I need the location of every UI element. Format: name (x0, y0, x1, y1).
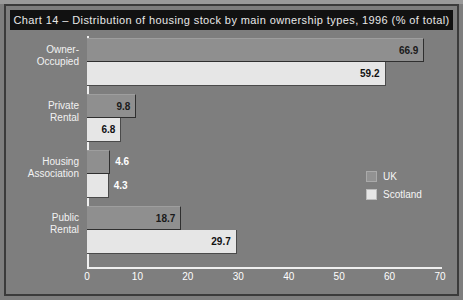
bar-uk-private-rental: 9.8 (87, 94, 136, 118)
category-label-line1: Owner- (0, 44, 79, 56)
x-tick-label: 40 (283, 271, 294, 282)
chart-legend: UK Scotland (366, 170, 446, 206)
bar-value-label: 29.7 (211, 230, 230, 254)
category-label-line2: Association (0, 168, 79, 180)
legend-item-uk: UK (366, 170, 446, 182)
bar-uk-owner-occupied: 66.9 (87, 38, 424, 62)
category-label-line1: Public (0, 212, 79, 224)
bar-value-label: 66.9 (399, 39, 418, 63)
x-tick-label: 70 (434, 271, 445, 282)
legend-swatch-icon (366, 189, 377, 200)
category-label-line2: Rental (0, 224, 79, 236)
category-label-line1: Private (0, 100, 79, 112)
chart-title-banner: Chart 14 – Distribution of housing stock… (10, 10, 453, 30)
bar-scotland-housing-association (87, 174, 109, 198)
plot-area: 66.9 59.2 9.8 6.8 4.6 4.3 18.7 29.7 (87, 36, 440, 267)
category-label-line2: Occupied (0, 56, 79, 68)
x-tick-label: 10 (132, 271, 143, 282)
category-label-public-rental: Public Rental (0, 212, 79, 236)
page-title: Chart 14 – Distribution of housing stock… (13, 14, 449, 26)
x-axis-line (87, 267, 442, 269)
x-tick-label: 50 (334, 271, 345, 282)
bar-value-label: 9.8 (117, 95, 131, 119)
bar-value-label: 18.7 (156, 207, 175, 231)
category-label-private-rental: Private Rental (0, 100, 79, 124)
x-axis-tick-labels: 0 10 20 30 40 50 60 70 (87, 271, 442, 287)
bar-value-label: 59.2 (360, 62, 379, 86)
x-tick-label: 0 (84, 271, 90, 282)
legend-label: UK (383, 171, 397, 182)
bar-value-label: 6.8 (101, 118, 115, 142)
chart-figure: Chart 14 – Distribution of housing stock… (0, 0, 463, 300)
bar-scotland-private-rental: 6.8 (87, 118, 121, 142)
bar-scotland-owner-occupied: 59.2 (87, 62, 386, 86)
category-label-owner-occupied: Owner- Occupied (0, 44, 79, 68)
legend-item-scotland: Scotland (366, 188, 446, 200)
legend-label: Scotland (383, 189, 422, 200)
x-tick-label: 60 (384, 271, 395, 282)
category-label-housing-association: Housing Association (0, 156, 79, 180)
x-tick-label: 30 (233, 271, 244, 282)
category-axis-labels: Owner- Occupied Private Rental Housing A… (0, 36, 87, 267)
x-tick-label: 20 (182, 271, 193, 282)
category-label-line2: Rental (0, 112, 79, 124)
bar-uk-public-rental: 18.7 (87, 206, 181, 230)
bar-uk-housing-association (87, 150, 110, 174)
legend-swatch-icon (366, 171, 377, 182)
bar-scotland-public-rental: 29.7 (87, 230, 237, 254)
category-label-line1: Housing (0, 156, 79, 168)
bar-value-label-uk-housing-association: 4.6 (115, 150, 129, 174)
bar-value-label-scotland-housing-association: 4.3 (114, 174, 128, 198)
